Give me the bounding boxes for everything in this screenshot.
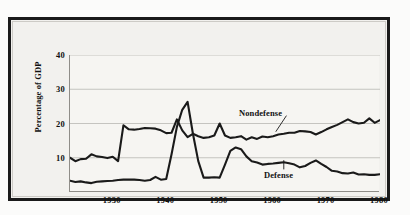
chart-lines [70, 55, 380, 192]
series-line-defense [70, 102, 380, 183]
y-tick-label: 40 [43, 50, 65, 60]
x-tick-label: 1940 [145, 195, 185, 205]
y-tick-label: 20 [43, 119, 65, 129]
x-tick-label: 1950 [199, 195, 239, 205]
y-axis-ticks: 10203040 [39, 20, 65, 204]
series-label-nondefense: Nondefense [239, 108, 282, 118]
series-label-defense: Defense [264, 170, 293, 180]
x-tick-label: 1960 [252, 195, 292, 205]
figure-page: Percentage of GDP 10203040 1930194019501… [0, 0, 410, 215]
x-tick-label: 1930 [92, 195, 132, 205]
series-line-nondefense [70, 118, 380, 161]
y-tick-label: 10 [43, 153, 65, 163]
x-tick-label: 1970 [306, 195, 346, 205]
plot-area [69, 55, 379, 192]
chart-figure-frame: Percentage of GDP 10203040 1930194019501… [8, 17, 390, 201]
x-tick-label: 1980 [359, 195, 399, 205]
x-axis-ticks: 193019401950196019701980 [69, 195, 389, 209]
y-tick-label: 30 [43, 84, 65, 94]
